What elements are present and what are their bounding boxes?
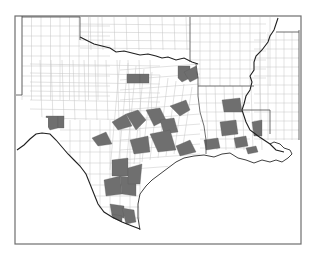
highlighted-county-tx-north-central-1[interactable] [127, 74, 140, 83]
highlighted-county-tx-north-central-2[interactable] [140, 74, 149, 83]
highlighted-county-tx-south-3[interactable] [112, 158, 128, 176]
highlighted-county-tx-west-2[interactable] [58, 116, 64, 128]
highlighted-county-la-south-1[interactable] [234, 136, 248, 148]
highlighted-county-tx-east-2[interactable] [222, 98, 242, 112]
highlighted-county-la-central-1[interactable] [220, 120, 238, 136]
map-container [0, 0, 316, 259]
county-map[interactable] [0, 0, 316, 259]
